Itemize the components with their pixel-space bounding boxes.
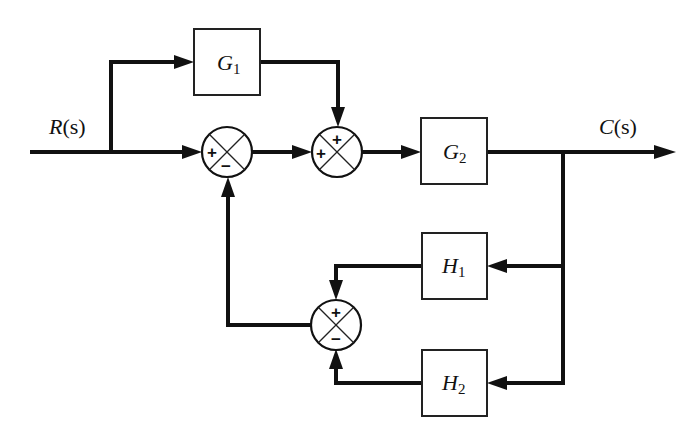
block-h1[interactable]: H1	[422, 233, 487, 299]
block-h2[interactable]: H2	[422, 350, 487, 416]
block-g2-label: G	[443, 139, 459, 164]
summing-junction-3[interactable]: + −	[311, 300, 361, 350]
block-diagram: G1 G2 H1 H2 + − + + + − R(s) C(s)	[0, 0, 693, 441]
s2-sign-top: +	[332, 130, 342, 149]
input-wire	[30, 145, 202, 159]
block-g2[interactable]: G2	[421, 118, 487, 184]
input-signal-label: R(s)	[48, 114, 86, 139]
h2-output-wire	[329, 349, 422, 383]
summing-junction-1[interactable]: + −	[202, 127, 252, 177]
feedback-branch-wire	[487, 150, 563, 390]
s2-to-g2-wire	[362, 145, 421, 159]
output-wire	[487, 145, 676, 159]
s3-sign-top: +	[331, 303, 341, 322]
block-g1-label: G	[217, 50, 233, 75]
s1-sign-left: +	[207, 143, 217, 162]
feedforward-wire-to-g1	[111, 55, 194, 154]
block-g1[interactable]: G1	[194, 29, 260, 95]
h1-output-wire	[329, 266, 422, 300]
s1-to-s2-wire	[252, 145, 312, 159]
s2-sign-left: +	[316, 144, 326, 163]
s3-sign-bottom: −	[331, 330, 341, 349]
summing-junction-2[interactable]: + +	[312, 127, 362, 177]
s1-sign-bottom: −	[221, 157, 231, 176]
output-signal-label: C(s)	[599, 114, 637, 139]
g1-output-wire	[260, 62, 345, 127]
block-h2-label: H	[441, 370, 459, 395]
block-h1-label: H	[441, 253, 459, 278]
s3-to-s1-wire	[221, 177, 311, 325]
